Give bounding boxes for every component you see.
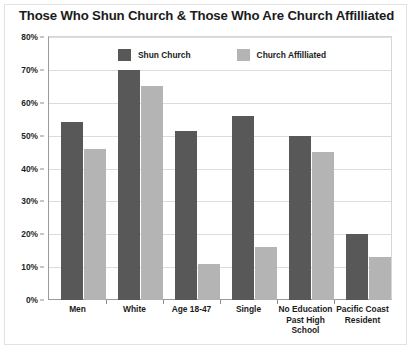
bar-shun-church bbox=[232, 116, 254, 300]
bar-shun-church bbox=[61, 122, 83, 300]
y-axis-tick-label: 30% bbox=[21, 196, 38, 206]
x-axis-label-line: Pacific Coast bbox=[326, 304, 399, 315]
x-axis-labels: MenWhiteAge 18-47SingleNo EducationPast … bbox=[49, 304, 391, 348]
y-axis-tick bbox=[40, 300, 44, 301]
bar-church-affilliated bbox=[84, 149, 106, 300]
bar-chart-figure: Those Who Shun Church & Those Who Are Ch… bbox=[0, 0, 413, 351]
y-axis-tick bbox=[40, 37, 44, 38]
bar-shun-church bbox=[346, 234, 368, 300]
y-axis-tick bbox=[40, 168, 44, 169]
y-axis: 0%10%20%30%40%50%60%70%80% bbox=[0, 36, 44, 300]
y-axis-tick-label: 60% bbox=[21, 98, 38, 108]
bar-group bbox=[220, 37, 277, 300]
y-axis-tick-label: 80% bbox=[21, 32, 38, 42]
bar-church-affilliated bbox=[141, 86, 163, 300]
y-axis-tick-label: 50% bbox=[21, 131, 38, 141]
y-axis-tick bbox=[40, 69, 44, 70]
bar-shun-church bbox=[175, 131, 197, 300]
y-axis-tick bbox=[40, 201, 44, 202]
bar-shun-church bbox=[289, 136, 311, 300]
bar-church-affilliated bbox=[312, 152, 334, 300]
y-axis-tick-label: 20% bbox=[21, 229, 38, 239]
bar-group bbox=[334, 37, 391, 300]
y-axis-tick bbox=[40, 267, 44, 268]
bar-group bbox=[106, 37, 163, 300]
y-axis-tick-label: 40% bbox=[21, 164, 38, 174]
y-axis-tick-label: 70% bbox=[21, 65, 38, 75]
y-axis-tick-label: 10% bbox=[21, 262, 38, 272]
y-axis-tick-label: 0% bbox=[26, 295, 38, 305]
bar-church-affilliated bbox=[369, 257, 391, 300]
x-axis-label-line: Resident bbox=[326, 315, 399, 326]
bar-shun-church bbox=[118, 70, 140, 300]
bar-groups bbox=[49, 37, 391, 300]
bar-church-affilliated bbox=[255, 247, 277, 300]
x-axis-category-label: Pacific CoastResident bbox=[326, 304, 399, 325]
y-axis-tick bbox=[40, 135, 44, 136]
bar-group bbox=[277, 37, 334, 300]
y-axis-tick bbox=[40, 102, 44, 103]
bar-church-affilliated bbox=[198, 264, 220, 300]
x-axis-label-line: School bbox=[269, 325, 342, 336]
bar-group bbox=[163, 37, 220, 300]
chart-title: Those Who Shun Church & Those Who Are Ch… bbox=[14, 8, 399, 23]
bar-group bbox=[49, 37, 106, 300]
y-axis-tick bbox=[40, 234, 44, 235]
